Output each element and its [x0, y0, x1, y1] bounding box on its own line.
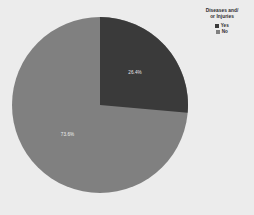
legend-title-line-2: or Injuries	[210, 14, 234, 19]
pie-slice-label-yes: 26.4%	[128, 70, 142, 75]
pie-chart-plot-area: 26.4% 73.6%	[12, 17, 188, 193]
legend-label-no: No	[222, 29, 228, 34]
pie-chart-figure: 26.4% 73.6% Diseases and/ or Injuries Ye…	[0, 0, 254, 215]
legend-swatch-no-icon	[216, 30, 220, 34]
pie-slice-label-no: 73.6%	[61, 132, 75, 137]
pie-slice-yes[interactable]	[100, 17, 188, 113]
legend-label-yes: Yes	[221, 23, 229, 28]
legend-items: Yes No	[193, 23, 251, 34]
legend-item-no[interactable]: No	[216, 29, 228, 34]
legend: Diseases and/ or Injuries Yes No	[193, 8, 251, 34]
legend-item-yes[interactable]: Yes	[215, 23, 228, 28]
legend-title: Diseases and/ or Injuries	[193, 8, 251, 20]
legend-swatch-yes-icon	[215, 24, 219, 28]
legend-title-line-1: Diseases and/	[206, 8, 239, 13]
pie-chart-svg: 26.4% 73.6%	[12, 17, 188, 193]
